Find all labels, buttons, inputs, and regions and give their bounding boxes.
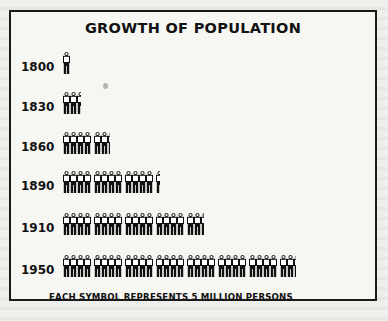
symbol-strip: [63, 90, 84, 114]
partial-person-icon: [108, 132, 110, 154]
symbol-group: [63, 132, 91, 154]
person-icon: [115, 171, 122, 193]
person-icon: [108, 213, 115, 235]
person-icon: [125, 213, 132, 235]
row-1860: 1860: [11, 130, 113, 154]
person-icon: [101, 255, 108, 277]
person-icon: [70, 213, 77, 235]
person-icon: [70, 255, 77, 277]
person-icon: [201, 255, 208, 277]
ink-speck: [103, 83, 108, 89]
person-icon: [187, 213, 194, 235]
person-icon: [146, 171, 153, 193]
symbol-group: [125, 213, 153, 235]
row-1830: 1830: [11, 90, 84, 114]
partial-person-icon: [201, 213, 204, 235]
year-label: 1950: [11, 263, 63, 277]
symbol-group: [94, 255, 122, 277]
person-icon: [125, 255, 132, 277]
person-icon: [156, 255, 163, 277]
person-icon: [94, 171, 101, 193]
person-icon: [70, 92, 77, 114]
symbol-strip: [63, 211, 207, 235]
symbol-strip: [63, 169, 163, 193]
person-icon: [187, 255, 194, 277]
symbol-group: [94, 132, 110, 154]
row-1910: 1910: [11, 211, 207, 235]
row-1800: 1800: [11, 50, 73, 74]
person-icon: [177, 213, 184, 235]
person-icon: [63, 132, 70, 154]
person-icon: [94, 255, 101, 277]
symbol-strip: [63, 253, 299, 277]
person-icon: [287, 255, 294, 277]
person-icon: [232, 255, 239, 277]
symbol-strip: [63, 50, 73, 74]
symbol-group: [63, 92, 81, 114]
person-icon: [280, 255, 287, 277]
person-icon: [263, 255, 270, 277]
person-icon: [139, 171, 146, 193]
year-label: 1830: [11, 100, 63, 114]
person-icon: [84, 171, 91, 193]
row-1950: 1950: [11, 253, 299, 277]
person-icon: [208, 255, 215, 277]
symbol-group: [63, 213, 91, 235]
person-icon: [77, 132, 84, 154]
person-icon: [239, 255, 246, 277]
person-icon: [94, 132, 101, 154]
symbol-group: [187, 213, 204, 235]
person-icon: [84, 132, 91, 154]
symbol-group: [63, 52, 70, 74]
person-icon: [63, 92, 70, 114]
person-icon: [77, 171, 84, 193]
partial-person-icon: [294, 255, 296, 277]
symbol-group: [125, 171, 153, 193]
person-icon: [94, 213, 101, 235]
symbol-legend-note: EACH SYMBOL REPRESENTS 5 MILLION PERSONS: [49, 292, 293, 302]
person-icon: [70, 132, 77, 154]
symbol-group: [156, 213, 184, 235]
symbol-group: [280, 255, 296, 277]
chart-frame: GROWTH OF POPULATION 1800 1830 1860 1890…: [9, 10, 377, 301]
symbol-group: [94, 213, 122, 235]
person-icon: [256, 255, 263, 277]
year-label: 1890: [11, 179, 63, 193]
symbol-group: [125, 255, 153, 277]
person-icon: [101, 132, 108, 154]
person-icon: [170, 213, 177, 235]
symbol-group: [94, 171, 122, 193]
person-icon: [101, 213, 108, 235]
symbol-group: [63, 171, 91, 193]
person-icon: [77, 255, 84, 277]
person-icon: [108, 171, 115, 193]
person-icon: [139, 255, 146, 277]
person-icon: [170, 255, 177, 277]
symbol-group: [156, 171, 160, 193]
symbol-strip: [63, 130, 113, 154]
person-icon: [115, 213, 122, 235]
person-icon: [63, 171, 70, 193]
person-icon: [218, 255, 225, 277]
symbol-group: [63, 255, 91, 277]
year-label: 1800: [11, 60, 63, 74]
chart-title: GROWTH OF POPULATION: [11, 20, 375, 36]
person-icon: [194, 213, 201, 235]
person-icon: [156, 213, 163, 235]
person-icon: [108, 255, 115, 277]
row-1890: 1890: [11, 169, 163, 193]
person-icon: [163, 213, 170, 235]
year-label: 1910: [11, 221, 63, 235]
partial-person-icon: [156, 171, 160, 193]
person-icon: [177, 255, 184, 277]
person-icon: [70, 171, 77, 193]
person-icon: [132, 213, 139, 235]
person-icon: [194, 255, 201, 277]
person-icon: [132, 255, 139, 277]
person-icon: [115, 255, 122, 277]
symbol-group: [249, 255, 277, 277]
person-icon: [101, 171, 108, 193]
person-icon: [225, 255, 232, 277]
person-icon: [63, 213, 70, 235]
person-icon: [125, 171, 132, 193]
